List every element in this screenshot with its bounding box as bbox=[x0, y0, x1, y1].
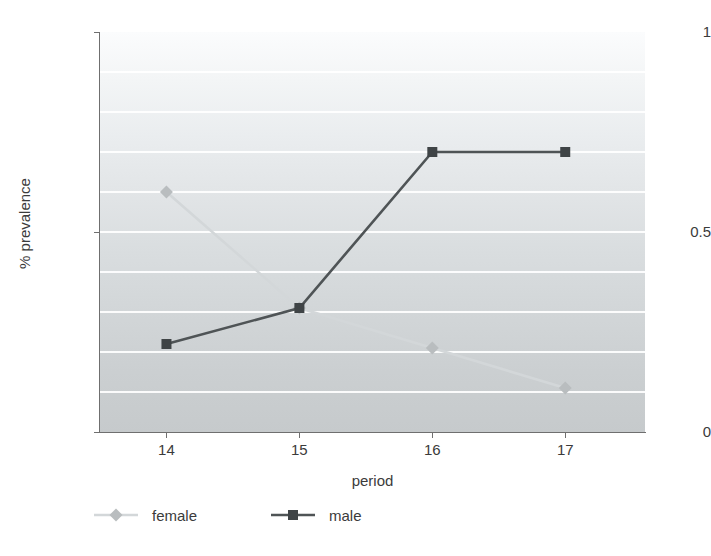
x-axis-tick bbox=[432, 433, 433, 438]
legend-entry-female[interactable]: female bbox=[92, 507, 197, 524]
x-axis-tick-label: 14 bbox=[136, 442, 196, 457]
y-axis-tick-label: 1 bbox=[627, 24, 711, 39]
x-axis-tick bbox=[299, 433, 300, 438]
legend-entry-male[interactable]: male bbox=[269, 507, 362, 524]
series-line bbox=[166, 192, 565, 388]
x-axis-line bbox=[99, 432, 646, 433]
x-axis-tick-label: 17 bbox=[535, 442, 595, 457]
series-male bbox=[161, 147, 570, 349]
chart-figure: 10.50 14151617 period % prevalence femal… bbox=[0, 0, 711, 556]
y-axis-title: % prevalence bbox=[16, 164, 33, 284]
x-axis-tick bbox=[166, 433, 167, 438]
y-axis-tick bbox=[94, 432, 99, 433]
data-point-marker bbox=[426, 342, 439, 355]
x-axis-tick-label: 15 bbox=[269, 442, 329, 457]
y-axis-tick bbox=[94, 232, 99, 233]
data-point-marker bbox=[294, 303, 304, 313]
legend-label: female bbox=[152, 507, 197, 524]
data-point-marker bbox=[559, 382, 572, 395]
legend-label: male bbox=[329, 507, 362, 524]
x-axis-tick bbox=[565, 433, 566, 438]
y-axis-tick-label: 0.5 bbox=[627, 224, 711, 239]
y-axis-tick bbox=[94, 32, 99, 33]
plot-area bbox=[100, 32, 645, 432]
series-female bbox=[160, 186, 572, 395]
chart-legend: femalemale bbox=[92, 502, 362, 528]
y-axis-line bbox=[99, 32, 100, 433]
series-layer bbox=[100, 32, 645, 432]
legend-marker-square-icon bbox=[269, 508, 317, 522]
series-line bbox=[166, 152, 565, 344]
legend-marker-diamond-icon bbox=[92, 508, 140, 522]
x-axis-tick-label: 16 bbox=[402, 442, 462, 457]
series-svg bbox=[100, 32, 645, 432]
data-point-marker bbox=[560, 147, 570, 157]
y-axis-tick-label: 0 bbox=[627, 424, 711, 439]
data-point-marker bbox=[427, 147, 437, 157]
data-point-marker bbox=[161, 339, 171, 349]
x-axis-title: period bbox=[100, 472, 645, 489]
